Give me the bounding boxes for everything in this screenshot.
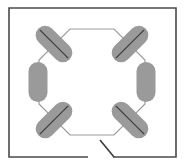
capsule-right-body xyxy=(137,62,156,102)
capsule-top-left xyxy=(32,22,77,67)
door-leaf xyxy=(100,140,114,157)
capsule-left-body xyxy=(29,62,48,102)
octagon-floor-plan xyxy=(0,0,187,168)
capsule-bottom-left xyxy=(32,98,77,143)
capsule-left xyxy=(29,62,48,102)
capsule-right xyxy=(137,62,156,102)
diagram-canvas xyxy=(0,0,187,168)
capsule-top-right xyxy=(108,22,153,67)
capsule-set xyxy=(29,22,156,143)
door-swing-line xyxy=(100,140,114,157)
capsule-bottom-right xyxy=(108,98,153,143)
